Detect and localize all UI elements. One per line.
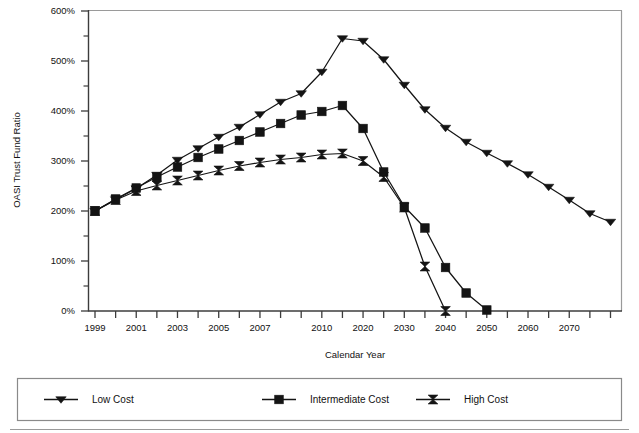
square-icon bbox=[275, 395, 284, 404]
x-tick-label: 1999 bbox=[84, 322, 105, 333]
legend-label: Intermediate Cost bbox=[310, 394, 389, 405]
square-icon bbox=[214, 145, 223, 154]
square-icon bbox=[153, 173, 162, 182]
data-point-square bbox=[214, 145, 223, 154]
x-tick-label: 2007 bbox=[249, 322, 270, 333]
x-tick-label: 2020 bbox=[352, 322, 373, 333]
data-point-square bbox=[297, 111, 306, 120]
x-tick-label: 2060 bbox=[517, 322, 538, 333]
y-tick-label: 200% bbox=[51, 205, 76, 216]
legend-item-intermediate-cost: Intermediate Cost bbox=[262, 394, 389, 405]
square-icon bbox=[318, 107, 327, 116]
x-tick-label: 2010 bbox=[311, 322, 332, 333]
data-point-square bbox=[462, 289, 471, 298]
square-icon bbox=[297, 111, 306, 120]
data-point-square bbox=[276, 119, 285, 128]
square-icon bbox=[462, 289, 471, 298]
data-point-square bbox=[359, 124, 368, 133]
y-axis-title: OASI Trust Fund Ratio bbox=[11, 112, 22, 208]
x-tick-label: 2030 bbox=[394, 322, 415, 333]
y-tick-label: 300% bbox=[51, 155, 76, 166]
x-axis-title: Calendar Year bbox=[325, 349, 385, 360]
square-icon bbox=[173, 163, 182, 172]
y-tick-label: 0% bbox=[61, 305, 75, 316]
data-point-square bbox=[482, 306, 491, 315]
square-icon bbox=[359, 124, 368, 133]
data-point-square bbox=[338, 101, 347, 110]
y-tick-label: 100% bbox=[51, 255, 76, 266]
x-tick-label: 2005 bbox=[208, 322, 229, 333]
square-icon bbox=[338, 101, 347, 110]
x-tick-label: 2003 bbox=[167, 322, 188, 333]
y-tick-label: 500% bbox=[51, 55, 76, 66]
square-icon bbox=[441, 263, 450, 272]
data-point-square bbox=[318, 107, 327, 116]
square-icon bbox=[276, 119, 285, 128]
legend-label: High Cost bbox=[464, 394, 508, 405]
chart-background bbox=[0, 0, 639, 433]
square-icon bbox=[194, 153, 203, 162]
square-icon bbox=[421, 224, 430, 233]
x-tick-label: 2040 bbox=[435, 322, 456, 333]
data-point-square bbox=[235, 136, 244, 145]
square-icon bbox=[235, 136, 244, 145]
data-point-square bbox=[194, 153, 203, 162]
data-point-square bbox=[441, 263, 450, 272]
legend-label: Low Cost bbox=[92, 394, 134, 405]
y-tick-label: 400% bbox=[51, 105, 76, 116]
y-tick-label: 600% bbox=[51, 5, 76, 16]
square-icon bbox=[256, 128, 265, 137]
trust-fund-ratio-line-chart: 0%100%200%300%400%500%600% 1999200120032… bbox=[0, 0, 639, 433]
chart-figure: 0%100%200%300%400%500%600% 1999200120032… bbox=[0, 0, 639, 433]
data-point-square bbox=[153, 173, 162, 182]
data-point-square bbox=[275, 395, 284, 404]
data-point-square bbox=[173, 163, 182, 172]
data-point-square bbox=[256, 128, 265, 137]
x-tick-label: 2001 bbox=[126, 322, 147, 333]
x-tick-label: 2050 bbox=[476, 322, 497, 333]
data-point-square bbox=[421, 224, 430, 233]
square-icon bbox=[482, 306, 491, 315]
x-tick-label: 2070 bbox=[559, 322, 580, 333]
